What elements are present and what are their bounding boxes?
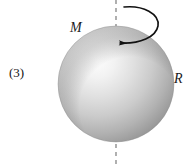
figure-index-label: (3): [9, 66, 24, 79]
mass-label: M: [70, 21, 82, 35]
figure-canvas: [0, 0, 186, 166]
sphere-rim-shadow: [58, 26, 174, 142]
physics-figure: (3) M R: [0, 0, 186, 166]
radius-label: R: [174, 72, 183, 86]
